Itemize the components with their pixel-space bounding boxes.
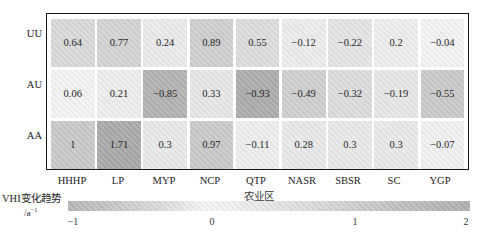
colorbar-tick-2: 2	[464, 216, 469, 227]
x-label-ygp: YGP	[418, 175, 462, 186]
colorbar-unit: /a−1	[24, 206, 37, 218]
cell-value: 0.2	[390, 37, 403, 48]
heatmap-cell: 0.89	[190, 19, 234, 67]
cell-value: 0.64	[64, 37, 82, 48]
heatmap-cell: 0.55	[236, 19, 280, 67]
heatmap-cell: −0.12	[282, 19, 326, 67]
x-label-sbsr: SBSR	[326, 175, 370, 186]
cell-value: −0.04	[430, 37, 454, 48]
heatmap-cell: 0.28	[282, 121, 326, 169]
colorbar-title: VHI变化趋势	[2, 193, 61, 205]
colorbar-tick-neg1: −1	[68, 216, 79, 227]
cell-value: −0.85	[153, 88, 177, 99]
heatmap-cell: 1.71	[97, 121, 141, 169]
cell-value: 0.28	[295, 139, 313, 150]
heatmap-cell: −0.32	[328, 70, 372, 118]
heatmap-cell: −0.93	[236, 70, 280, 118]
heatmap-cell: 0.77	[97, 19, 141, 67]
heatmap-cell: −0.55	[421, 70, 465, 118]
heatmap-cell: 0.33	[190, 70, 234, 118]
x-label-ncp: NCP	[188, 175, 232, 186]
cell-value: 0.21	[110, 88, 128, 99]
y-label-uu: UU	[27, 28, 42, 39]
heatmap-cell: −0.22	[328, 19, 372, 67]
cell-value: −0.22	[338, 37, 362, 48]
clipped-caption	[60, 233, 440, 239]
cell-value: 0.55	[248, 37, 266, 48]
heatmap-cell: −0.19	[374, 70, 418, 118]
cell-value: 0.06	[64, 88, 82, 99]
colorbar-tick-1: 1	[353, 216, 358, 227]
x-label-nasr: NASR	[280, 175, 324, 186]
heatmap-cell: 1	[51, 121, 95, 169]
cell-value: −0.11	[246, 139, 270, 150]
heatmap-grid: 0.640.770.240.890.55−0.12−0.220.2−0.040.…	[51, 19, 464, 169]
cell-value: 0.24	[156, 37, 174, 48]
cell-value: −0.07	[430, 139, 454, 150]
cell-value: −0.12	[292, 37, 316, 48]
heatmap-cell: 0.2	[374, 19, 418, 67]
heatmap-cell: 0.3	[328, 121, 372, 169]
heatmap-cell: 0.97	[190, 121, 234, 169]
y-label-au: AU	[27, 79, 42, 90]
colorbar	[68, 201, 470, 211]
x-label-hhhp: HHHP	[50, 175, 94, 186]
heatmap-cell: 0.64	[51, 19, 95, 67]
heatmap-cell: −0.07	[421, 121, 465, 169]
heatmap-cell: 0.3	[143, 121, 187, 169]
cell-value: 0.3	[343, 139, 356, 150]
cell-value: 0.33	[202, 88, 220, 99]
heatmap-cell: 0.21	[97, 70, 141, 118]
heatmap-cell: −0.49	[282, 70, 326, 118]
cell-value: −0.55	[430, 88, 454, 99]
cell-value: 0.3	[390, 139, 403, 150]
y-label-aa: AA	[27, 130, 42, 141]
cell-value: 0.77	[110, 37, 128, 48]
cell-value: 0.97	[202, 139, 220, 150]
heatmap-cell: 0.06	[51, 70, 95, 118]
x-label-qtp: QTP	[234, 175, 278, 186]
cell-value: 1	[70, 139, 75, 150]
x-label-myp: MYP	[142, 175, 186, 186]
heatmap-cell: 0.24	[143, 19, 187, 67]
heatmap-cell: −0.11	[236, 121, 280, 169]
heatmap-cell: −0.85	[143, 70, 187, 118]
colorbar-tick-0: 0	[210, 216, 215, 227]
cell-value: −0.19	[384, 88, 408, 99]
heatmap-cell: −0.04	[421, 19, 465, 67]
cell-value: −0.32	[338, 88, 362, 99]
x-label-sc: SC	[372, 175, 416, 186]
cell-value: −0.49	[292, 88, 316, 99]
cell-value: 1.71	[110, 139, 128, 150]
heatmap-cell: 0.3	[374, 121, 418, 169]
cell-value: 0.3	[159, 139, 172, 150]
cell-value: 0.89	[202, 37, 220, 48]
heatmap-frame: 0.640.770.240.890.55−0.12−0.220.2−0.040.…	[46, 13, 469, 170]
x-label-lp: LP	[96, 175, 140, 186]
x-axis-labels: HHHP LP MYP NCP QTP NASR SBSR SC YGP	[50, 175, 470, 189]
cell-value: −0.93	[245, 88, 269, 99]
